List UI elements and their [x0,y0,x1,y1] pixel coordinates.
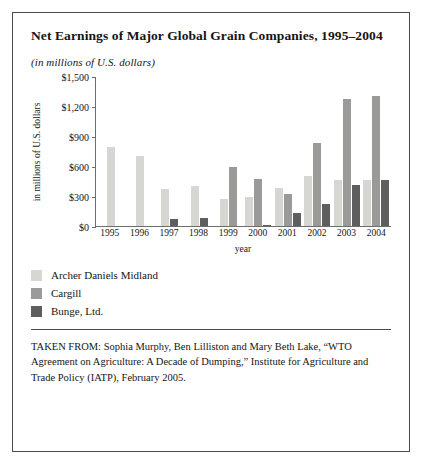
x-axis-tick-label: 1998 [184,228,214,238]
bar-group [362,77,392,226]
x-axis-tick-label: 2001 [273,228,303,238]
bar [200,218,208,227]
bar [229,167,237,227]
legend-item-label: Archer Daniels Midland [51,269,158,281]
x-axis-tick-label: 1995 [95,228,125,238]
y-axis-tick-label: $1,500 [62,72,90,83]
y-axis-title-text: in millions of U.S. dollars [32,103,42,202]
x-axis-tick-label: 2000 [243,228,273,238]
legend-swatch-icon [31,306,42,317]
bar [284,194,292,226]
bar-group [303,77,333,226]
bar-group [332,77,362,226]
bar [372,96,380,226]
x-axis-tick-label: 1996 [125,228,155,238]
y-axis-tick-mark [92,137,96,138]
figure-frame: Net Earnings of Major Global Grain Compa… [12,12,410,452]
bar-group [155,77,185,226]
y-axis-tick-label: $1,200 [62,102,90,113]
legend-swatch-icon [31,270,42,281]
bar [313,143,321,226]
legend-item-adm: Archer Daniels Midland [31,267,409,283]
y-axis-ticks: $0$300$600$900$1,200$1,500 [43,77,93,227]
bar [343,99,351,226]
y-axis-tick-label: $300 [69,192,89,203]
x-axis-ticks: 1995199619971998199920002001200220032004 [95,228,391,238]
bar [161,189,169,227]
bar [191,186,199,226]
divider [31,329,391,330]
bar [293,213,301,226]
axis-box [95,77,391,227]
page-title: Net Earnings of Major Global Grain Compa… [31,27,391,45]
y-axis-tick-label: $600 [69,162,89,173]
legend-item-cargill: Cargill [31,285,409,301]
bar-series-container [96,77,391,226]
bar [263,225,271,226]
x-axis-tick-label: 2002 [302,228,332,238]
x-axis-tick-label: 1997 [154,228,184,238]
bar [363,180,371,226]
y-axis-tick-mark [92,77,96,78]
bar [220,199,228,226]
bar-group [214,77,244,226]
x-axis-tick-label: 2004 [361,228,391,238]
bar-group [126,77,156,226]
bar [304,176,312,226]
legend-item-label: Cargill [51,287,81,299]
x-axis-tick-label: 2003 [332,228,362,238]
figure-subtitle: (in millions of U.S. dollars) [31,56,391,68]
chart-plot-area: in millions of U.S. dollars $0$300$600$9… [31,77,393,253]
y-axis-tick-mark [92,197,96,198]
bar [107,147,115,226]
bar-group [273,77,303,226]
bar [322,204,330,226]
x-axis-title: year [95,244,391,254]
bar-group [185,77,215,226]
chart-legend: Archer Daniels MidlandCargillBunge, Ltd. [31,267,409,319]
bar [170,219,178,227]
bar [275,188,283,226]
bar-group [244,77,274,226]
bar [254,179,262,226]
bar [352,185,360,226]
y-axis-tick-mark [92,167,96,168]
bar-group [96,77,126,226]
legend-item-bunge: Bunge, Ltd. [31,303,409,319]
x-axis-tick-label: 1999 [213,228,243,238]
bar [334,180,342,226]
y-axis-tick-label: $0 [79,222,89,233]
y-axis-tick-mark [92,107,96,108]
bar [245,197,253,226]
legend-swatch-icon [31,288,42,299]
bar [136,156,144,226]
legend-item-label: Bunge, Ltd. [51,305,103,317]
source-note: TAKEN FROM: Sophia Murphy, Ben Lilliston… [31,339,391,385]
bar [381,180,389,226]
y-axis-tick-label: $900 [69,132,89,143]
